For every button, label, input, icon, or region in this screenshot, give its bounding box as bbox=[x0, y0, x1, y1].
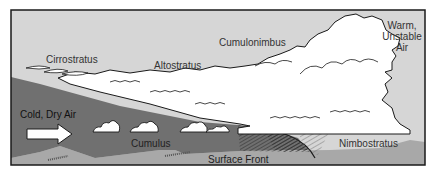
cold-front-diagram: Cirrostratus Altostratus Cumulonimbus Wa… bbox=[0, 0, 434, 180]
label-altostratus: Altostratus bbox=[154, 60, 201, 71]
warm-air-line-2: Unstable bbox=[378, 31, 426, 42]
label-cumulonimbus: Cumulonimbus bbox=[219, 37, 286, 48]
label-cirrostratus: Cirrostratus bbox=[46, 54, 98, 65]
warm-air-line-3: Air bbox=[378, 42, 426, 53]
label-cold-dry-air: Cold, Dry Air bbox=[20, 109, 76, 120]
label-cumulus: Cumulus bbox=[131, 138, 170, 149]
label-nimbostratus: Nimbostratus bbox=[339, 138, 398, 149]
label-surface-front: Surface Front bbox=[208, 154, 269, 165]
label-warm-unstable-air: Warm, Unstable Air bbox=[378, 20, 426, 53]
warm-air-line-1: Warm, bbox=[378, 20, 426, 31]
diagram-illustration bbox=[0, 0, 434, 180]
